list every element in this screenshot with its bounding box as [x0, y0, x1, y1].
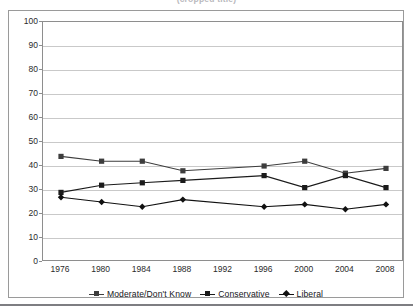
data-point-marker: [180, 178, 185, 183]
diamond-marker-icon: [279, 290, 294, 299]
data-point-marker: [180, 196, 186, 202]
series-layer: [43, 22, 404, 262]
x-axis-tick-label: 1984: [132, 264, 151, 274]
data-point-marker: [58, 154, 63, 159]
x-axis-tick-label: 1976: [51, 264, 70, 274]
y-axis-tick-label: 40: [29, 161, 38, 170]
series-line: [61, 176, 386, 193]
page-bottom-rule: [0, 304, 413, 306]
data-point-marker: [98, 199, 104, 205]
y-axis-tick-mark: [39, 261, 42, 262]
y-axis-tick-label: 20: [29, 209, 38, 218]
legend-item-1[interactable]: Moderate/Don't Know: [89, 289, 191, 299]
square-marker-icon: [89, 290, 104, 299]
series-2: [58, 173, 388, 195]
chart-frame: 0102030405060708090100 19761980198419881…: [8, 10, 404, 298]
data-point-marker: [261, 204, 267, 210]
data-point-marker: [383, 166, 388, 171]
data-point-marker: [383, 185, 388, 190]
x-axis-tick-label: 1992: [213, 264, 232, 274]
data-point-marker: [302, 185, 307, 190]
y-axis-tick-label: 50: [29, 137, 38, 146]
y-axis-tick-label: 100: [24, 17, 38, 26]
legend-item-2[interactable]: Conservative: [200, 289, 269, 299]
y-axis-tick-label: 60: [29, 113, 38, 122]
data-point-marker: [262, 163, 267, 168]
data-point-marker: [99, 183, 104, 188]
square-marker-icon: [200, 290, 215, 299]
y-axis-tick-label: 0: [33, 257, 38, 266]
series-line: [61, 156, 386, 173]
x-axis-tick-label: 2008: [376, 264, 395, 274]
x-axis-tick-label: 2004: [335, 264, 354, 274]
data-point-marker: [302, 201, 308, 207]
y-axis-tick-label: 30: [29, 185, 38, 194]
data-point-marker: [343, 173, 348, 178]
y-axis-tick-label: 80: [29, 65, 38, 74]
chart-title-strip: (cropped title): [0, 0, 413, 9]
legend-item-label: Liberal: [297, 289, 324, 299]
series-1: [58, 154, 388, 176]
x-axis-tick-label: 2000: [294, 264, 313, 274]
x-axis-tick-label: 1980: [91, 264, 110, 274]
series-3: [58, 194, 389, 212]
y-axis: 0102030405060708090100: [9, 21, 42, 262]
x-axis: 197619801984198819921996200020042008: [42, 264, 403, 280]
plot-area: [42, 21, 403, 261]
legend-item-label: Moderate/Don't Know: [107, 289, 191, 299]
y-axis-tick-label: 90: [29, 41, 38, 50]
data-point-marker: [180, 168, 185, 173]
data-point-marker: [140, 159, 145, 164]
x-axis-tick-label: 1996: [254, 264, 273, 274]
series-line: [61, 197, 386, 209]
legend-item-3[interactable]: Liberal: [279, 289, 324, 299]
data-point-marker: [383, 201, 389, 207]
data-point-marker: [140, 180, 145, 185]
data-point-marker: [262, 173, 267, 178]
data-point-marker: [99, 159, 104, 164]
data-point-marker: [302, 159, 307, 164]
data-point-marker: [342, 206, 348, 212]
chart-title: (cropped title): [0, 0, 413, 4]
data-point-marker: [139, 204, 145, 210]
x-axis-tick-label: 1988: [172, 264, 191, 274]
y-axis-tick-label: 70: [29, 89, 38, 98]
chart-legend: Moderate/Don't KnowConservativeLiberal: [8, 286, 404, 302]
y-axis-tick-label: 10: [29, 233, 38, 242]
legend-item-label: Conservative: [218, 289, 269, 299]
